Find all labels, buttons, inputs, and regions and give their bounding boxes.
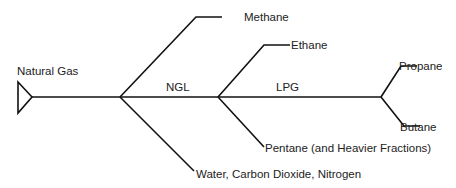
fractionation-diagram: Natural Gas NGL LPG Methane Ethane Propa… bbox=[0, 0, 456, 188]
segment-lpg-label: LPG bbox=[276, 81, 299, 93]
branch-water-line bbox=[120, 97, 194, 171]
source-label: Natural Gas bbox=[17, 65, 79, 77]
segment-ngl-label: NGL bbox=[166, 81, 190, 93]
product-butane-label: Butane bbox=[400, 121, 436, 133]
source-triangle-icon bbox=[18, 82, 32, 113]
product-methane-label: Methane bbox=[244, 11, 289, 23]
product-pentane-label: Pentane (and Heavier Fractions) bbox=[265, 142, 431, 154]
product-ethane-label: Ethane bbox=[291, 39, 327, 51]
product-water-label: Water, Carbon Dioxide, Nitrogen bbox=[196, 168, 361, 180]
branch-pentane-line bbox=[218, 97, 264, 147]
product-propane-label: Propane bbox=[399, 60, 442, 72]
